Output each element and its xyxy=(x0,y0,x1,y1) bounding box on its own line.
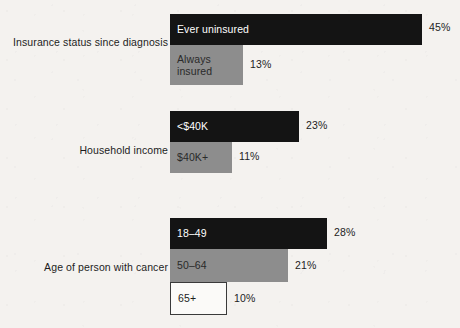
group-label-insurance-status: Insurance status since diagnosis xyxy=(0,36,168,48)
bar-income-under-40k: <$40K xyxy=(170,111,299,142)
bar-category-age-65-plus: 65+ xyxy=(171,292,196,304)
bar-value-age-18-49: 28% xyxy=(334,226,355,238)
group-label-age-of-person-with-cancer: Age of person with cancer xyxy=(0,261,168,273)
bar-category-always-insured: Always insured xyxy=(170,53,212,78)
bar-ever-uninsured: Ever uninsured xyxy=(170,14,422,45)
bar-value-ever-uninsured: 45% xyxy=(429,21,450,33)
bar-value-age-50-64: 21% xyxy=(295,259,316,271)
bar-value-income-40k-plus: 11% xyxy=(239,150,260,162)
bar-chart: Insurance status since diagnosis Ever un… xyxy=(0,0,460,328)
bar-category-ever-uninsured: Ever uninsured xyxy=(170,23,249,35)
bar-value-income-under-40k: 23% xyxy=(306,119,327,131)
bar-age-65-plus: 65+ xyxy=(170,282,227,315)
bar-value-always-insured: 13% xyxy=(250,58,271,70)
bar-category-age-50-64: 50–64 xyxy=(170,259,207,271)
bar-value-age-65-plus: 10% xyxy=(234,292,255,304)
bar-category-income-40k-plus: $40K+ xyxy=(170,151,208,163)
bar-category-income-under-40k: <$40K xyxy=(170,120,208,132)
bar-always-insured: Always insured xyxy=(170,45,243,85)
bar-income-40k-plus: $40K+ xyxy=(170,142,232,173)
bar-age-50-64: 50–64 xyxy=(170,249,288,282)
bar-category-age-18-49: 18–49 xyxy=(170,227,207,239)
bar-age-18-49: 18–49 xyxy=(170,218,327,249)
group-label-household-income: Household income xyxy=(0,144,168,156)
